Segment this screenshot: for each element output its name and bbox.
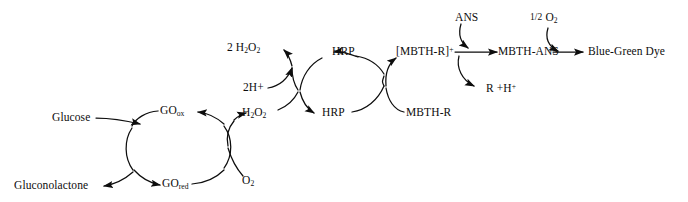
label-mbth-r: MBTH-R — [406, 107, 451, 119]
arrow-to-hrp-red — [300, 92, 314, 113]
reaction-scheme-diagram: Glucose Gluconolactone GOox GOred O2 H2O… — [0, 0, 688, 202]
go-red-text: GO — [162, 177, 179, 189]
label-two-protons: 2H+ — [243, 82, 264, 94]
go-ox-subscript: ox — [177, 109, 185, 118]
ans-text: ANS — [455, 11, 478, 23]
arrow-goox-to-gluconolactone — [104, 172, 133, 186]
mbth-ans-text: MBTH-ANS — [498, 45, 559, 57]
label-blue-green-dye: Blue-Green Dye — [588, 46, 665, 58]
arc-hrp-cycle-topright-rev — [356, 56, 384, 74]
arc-cross-right-up — [224, 126, 231, 168]
go-red-subscript: red — [179, 182, 189, 191]
label-ans: ANS — [455, 12, 478, 24]
arc-hrp-left-up — [292, 68, 298, 90]
label-two-water: 2 H2O2 — [227, 42, 260, 54]
h2o2-sub2: 2 — [263, 111, 267, 120]
r-plus-proton-superscript: + — [512, 82, 516, 91]
label-hrp-ox: HRP — [332, 46, 355, 58]
arc-hrp-red-to-right — [352, 86, 384, 112]
label-hydrogen-peroxide: H2O2 — [242, 107, 266, 119]
arrow-to-r-plus-proton — [458, 56, 474, 86]
arc-h2o2-to-hrp-cycle — [278, 92, 298, 110]
arrow-ans-in — [460, 24, 468, 48]
oxygen-subscript: 2 — [250, 179, 254, 188]
arrow-to-mbth-cation — [386, 58, 396, 86]
reaction-arrows-svg — [0, 0, 688, 202]
gluconolactone-text: Gluconolactone — [14, 179, 88, 191]
go-ox-text: GO — [160, 104, 177, 116]
mbth-r-cation-superscript: + — [449, 45, 453, 54]
label-oxygen: O2 — [242, 175, 254, 187]
hrp-red-text: HRP — [322, 106, 345, 118]
arc-hrp-right-waist — [383, 76, 385, 86]
mbth-r-cation-text: [MBTH-R] — [396, 45, 449, 57]
blue-green-dye-text: Blue-Green Dye — [588, 45, 665, 57]
arc-left-cycle-leftside — [126, 128, 133, 170]
half-oxygen-fraction: 1/2 — [530, 12, 542, 22]
label-r-plus-proton: R +H+ — [486, 83, 516, 95]
arc-mbthr-up — [386, 88, 404, 112]
label-glucose: Glucose — [52, 112, 90, 124]
arrow-to-two-water — [284, 50, 292, 66]
label-half-oxygen: 1/2 O2 — [530, 12, 558, 24]
two-water-prefix: 2 H — [227, 41, 244, 53]
h2o2-o: O — [254, 106, 262, 118]
half-oxygen-subscript: 2 — [554, 16, 558, 25]
label-mbth-r-cation: [MBTH-R]+ — [396, 46, 453, 58]
label-gluconolactone: Gluconolactone — [14, 180, 88, 192]
glucose-text: Glucose — [52, 111, 90, 123]
label-mbth-ans: MBTH-ANS — [498, 46, 559, 58]
two-protons-text: 2H+ — [243, 81, 264, 93]
arrow-to-gored — [134, 170, 160, 185]
two-water-sub2: 2 — [256, 46, 260, 55]
label-go-red: GOred — [162, 178, 189, 190]
hrp-ox-text: HRP — [332, 45, 355, 57]
half-oxygen-o: O — [545, 11, 553, 23]
arc-gored-to-cross — [192, 170, 224, 184]
arrow-two-protons-in — [268, 68, 292, 88]
label-go-ox: GOox — [160, 105, 184, 117]
arc-goox-top-left — [132, 111, 158, 126]
r-plus-proton-text: R +H — [486, 82, 512, 94]
mbth-r-text: MBTH-R — [406, 106, 451, 118]
label-hrp-red: HRP — [322, 107, 345, 119]
arrow-to-goox — [198, 112, 224, 124]
arc-hrp-cycle-topleft — [300, 58, 322, 90]
